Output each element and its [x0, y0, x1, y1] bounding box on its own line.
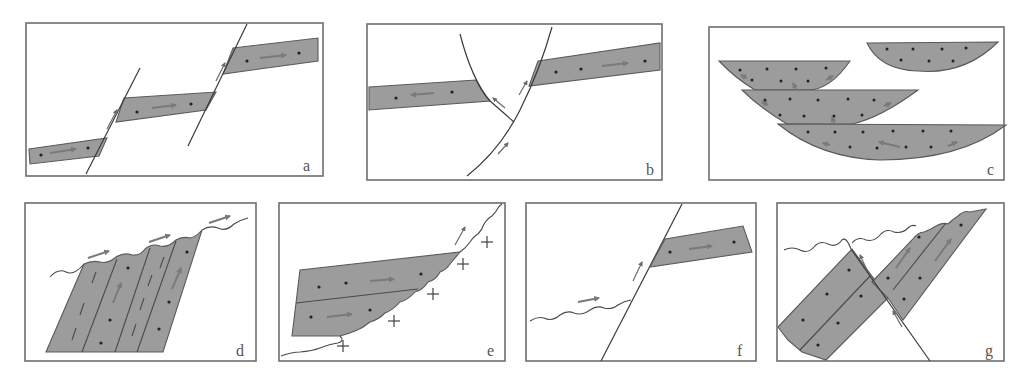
- panel-label-e: e: [487, 342, 494, 359]
- panel-f-frame: [526, 203, 756, 361]
- figure: a b: [0, 0, 1035, 383]
- panel-e: e: [279, 203, 505, 361]
- panel-label-f: f: [737, 342, 743, 359]
- panel-label-d: d: [236, 342, 244, 359]
- panel-d: d: [25, 203, 256, 361]
- panel-b: b: [367, 24, 662, 180]
- panel-c: c: [709, 27, 1006, 180]
- panel-label-a: a: [303, 157, 310, 174]
- panel-label-g: g: [985, 342, 993, 360]
- panel-label-b: b: [646, 161, 654, 178]
- panel-a: a: [26, 23, 323, 176]
- panel-f: f: [526, 203, 756, 361]
- panel-label-c: c: [987, 161, 994, 178]
- panel-g: g: [777, 203, 1004, 361]
